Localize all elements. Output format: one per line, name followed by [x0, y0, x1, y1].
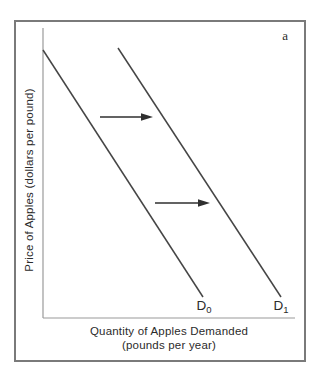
- x-axis-title-line2: (pounds per year): [43, 338, 295, 352]
- demand-curve-d0: [43, 50, 203, 297]
- shift-arrow-2-head-icon: [198, 199, 210, 207]
- panel-label: a: [282, 28, 288, 44]
- demand-chart-canvas: [16, 22, 304, 360]
- curve-label-d1: D1: [273, 299, 288, 313]
- x-axis-title: Quantity of Apples Demanded (pounds per …: [43, 324, 295, 352]
- curve-label-d0-subscript: 0: [206, 304, 211, 315]
- y-axis-title: Price of Apples (dollars per pound): [23, 88, 35, 271]
- demand-curve-d1: [118, 48, 281, 297]
- x-axis-title-line1: Quantity of Apples Demanded: [43, 324, 295, 338]
- curve-label-d0: D0: [196, 299, 211, 313]
- demand-shift-figure-panel: a D0 D1 Price of Apples (dollars per pou…: [14, 20, 306, 362]
- curve-label-d0-base: D: [196, 298, 206, 313]
- curve-label-d1-base: D: [273, 298, 283, 313]
- shift-arrow-1-head-icon: [141, 113, 153, 121]
- curve-label-d1-subscript: 1: [283, 304, 288, 315]
